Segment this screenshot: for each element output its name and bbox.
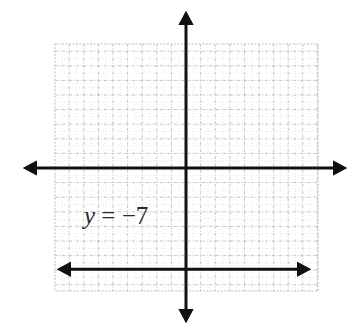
- line-y-equals-minus-7: [57, 262, 311, 277]
- equation-variable: y: [84, 202, 95, 229]
- coordinate-plane: [0, 0, 355, 325]
- equation-rhs: = −7: [95, 202, 148, 229]
- equation-label: y = −7: [84, 203, 148, 228]
